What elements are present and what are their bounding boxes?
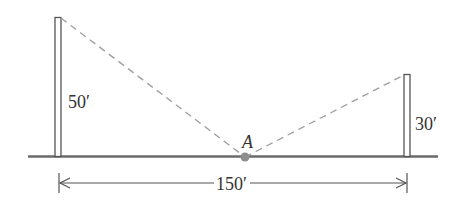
right-pole-height-label: 30′ [415, 114, 437, 134]
left-pole-height-label: 50′ [68, 92, 90, 112]
diagram-canvas: A 50′ 30′ 150′ [0, 0, 460, 202]
distance-label: 150′ [216, 174, 247, 194]
dashed-line-left [61, 18, 245, 157]
point-a-marker [241, 153, 250, 162]
dashed-line-right [245, 75, 404, 157]
right-pole [404, 75, 410, 157]
point-a-label: A [241, 132, 254, 152]
left-pole [55, 18, 61, 157]
